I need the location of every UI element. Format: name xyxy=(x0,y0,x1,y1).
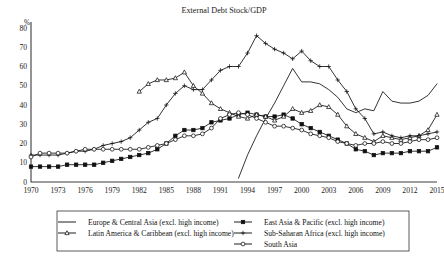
y-tick-label: 70 xyxy=(19,43,27,52)
y-tick-label: 30 xyxy=(19,120,27,129)
marker-circle xyxy=(309,132,313,136)
marker-circle xyxy=(426,138,430,142)
marker-circle xyxy=(155,144,159,148)
y-tick-label: 40 xyxy=(19,101,27,110)
marker-circle xyxy=(354,144,358,148)
marker-square xyxy=(192,128,195,131)
marker-circle xyxy=(417,138,421,142)
marker-circle xyxy=(241,242,245,246)
legend-label: East Asia & Pacific (excl. high income) xyxy=(264,218,385,227)
marker-circle xyxy=(345,142,349,146)
marker-square xyxy=(363,150,366,153)
marker-circle xyxy=(282,124,286,128)
marker-circle xyxy=(273,124,277,128)
marker-circle xyxy=(372,142,376,146)
marker-square xyxy=(309,126,312,129)
marker-circle xyxy=(255,117,259,121)
x-tick-label: 1979 xyxy=(105,186,120,195)
marker-square xyxy=(83,163,86,166)
marker-square xyxy=(47,165,50,168)
legend-label: Europe & Central Asia (excl. high income… xyxy=(88,218,219,227)
marker-square xyxy=(56,165,59,168)
marker-square xyxy=(228,117,231,120)
marker-square xyxy=(291,117,294,120)
marker-circle xyxy=(65,151,69,155)
marker-circle xyxy=(264,120,268,124)
x-tick-label: 1970 xyxy=(23,186,38,195)
marker-circle xyxy=(119,147,123,151)
marker-circle xyxy=(408,140,412,144)
marker-square xyxy=(74,163,77,166)
marker-square xyxy=(174,134,177,137)
marker-circle xyxy=(390,142,394,146)
y-tick-label: 20 xyxy=(19,139,27,148)
x-tick-label: 2015 xyxy=(429,186,444,195)
legend-label: Latin America & Caribbean (excl. high in… xyxy=(88,229,234,238)
marker-circle xyxy=(237,111,241,115)
marker-circle xyxy=(38,151,42,155)
legend-label: Sub-Saharan Africa (excl. high income) xyxy=(264,229,385,238)
x-tick-label: 2006 xyxy=(348,186,363,195)
marker-circle xyxy=(146,145,150,149)
marker-square xyxy=(120,157,123,160)
marker-square xyxy=(372,153,375,156)
x-tick-label: 2012 xyxy=(402,186,417,195)
marker-square xyxy=(156,148,159,151)
marker-circle xyxy=(327,136,331,140)
marker-circle xyxy=(219,117,223,121)
marker-square xyxy=(300,123,303,126)
marker-circle xyxy=(137,147,141,151)
marker-circle xyxy=(291,126,295,130)
marker-circle xyxy=(182,134,186,138)
y-tick-label: 80 xyxy=(19,24,27,33)
marker-circle xyxy=(192,134,196,138)
marker-circle xyxy=(210,126,214,130)
marker-circle xyxy=(435,136,439,140)
marker-circle xyxy=(363,142,367,146)
marker-square xyxy=(65,163,68,166)
marker-square xyxy=(183,128,186,131)
marker-circle xyxy=(83,147,87,151)
marker-circle xyxy=(128,147,132,151)
marker-square xyxy=(29,165,32,168)
marker-circle xyxy=(47,151,51,155)
marker-square xyxy=(92,163,95,166)
marker-circle xyxy=(173,138,177,142)
marker-square xyxy=(318,130,321,133)
y-axis-tick-labels: 01020304050607080 xyxy=(19,24,27,187)
x-tick-label: 2000 xyxy=(294,186,309,195)
marker-circle xyxy=(74,149,78,153)
marker-square xyxy=(417,150,420,153)
marker-circle xyxy=(399,142,403,146)
marker-circle xyxy=(164,142,168,146)
legend-label: South Asia xyxy=(264,240,298,249)
marker-circle xyxy=(318,134,322,138)
marker-circle xyxy=(228,113,232,117)
marker-circle xyxy=(56,151,60,155)
marker-square xyxy=(241,220,244,223)
marker-circle xyxy=(300,128,304,132)
marker-square xyxy=(147,151,150,154)
x-tick-label: 2009 xyxy=(375,186,390,195)
marker-square xyxy=(38,165,41,168)
marker-square xyxy=(201,126,204,129)
x-tick-label: 1976 xyxy=(78,186,93,195)
chart-figure: External Debt Stock/GDP % 01020304050607… xyxy=(0,0,444,257)
marker-square xyxy=(101,161,104,164)
marker-circle xyxy=(246,113,250,117)
marker-circle xyxy=(110,147,114,151)
x-tick-label: 1985 xyxy=(159,186,174,195)
marker-circle xyxy=(336,140,340,144)
x-tick-label: 1991 xyxy=(213,186,228,195)
marker-square xyxy=(354,148,357,151)
marker-square xyxy=(399,151,402,154)
x-tick-label: 1988 xyxy=(186,186,201,195)
marker-square xyxy=(111,159,114,162)
y-tick-label: 10 xyxy=(19,158,27,167)
x-tick-label: 1982 xyxy=(132,186,147,195)
marker-square xyxy=(435,146,438,149)
x-tick-label: 2003 xyxy=(321,186,336,195)
marker-circle xyxy=(92,147,96,151)
marker-square xyxy=(426,150,429,153)
marker-square xyxy=(138,153,141,156)
